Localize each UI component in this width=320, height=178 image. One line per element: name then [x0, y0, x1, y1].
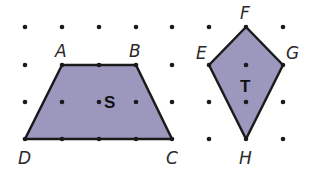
shape-name-s: S: [104, 93, 115, 112]
vertex-label-f: F: [240, 3, 250, 23]
vertex-label-g: G: [286, 43, 299, 63]
vertex-label-d: D: [18, 148, 31, 168]
vertex-label-e: E: [196, 43, 207, 63]
vertex-label-h: H: [239, 148, 252, 168]
vertex-label-b: B: [129, 41, 141, 61]
vertex-label-a: A: [54, 41, 67, 61]
shape-name-t: T: [240, 77, 251, 96]
vertex-label-c: C: [166, 148, 178, 168]
geometry-figure: A B C D S F G H E T: [0, 0, 320, 178]
dot-grid-diagram: A B C D S F G H E T: [0, 0, 320, 178]
